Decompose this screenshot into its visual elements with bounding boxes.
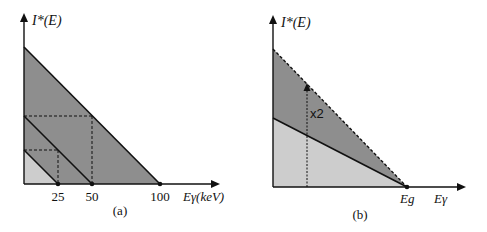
caption-a: (a): [113, 203, 127, 218]
tick-dot-100: [158, 182, 163, 187]
x-axis-arrow-icon: [211, 180, 220, 188]
panel-a: I*(E) 25 50 100 Eγ(keV) (a): [20, 13, 224, 218]
gap-dot: [405, 185, 410, 190]
tick-dot-25: [56, 182, 61, 187]
y-axis-arrow-icon: [269, 15, 277, 24]
x-axis-arrow-icon: [457, 183, 466, 191]
diagram-canvas: I*(E) 25 50 100 Eγ(keV) (a) x2 I*(E) Eg …: [0, 0, 487, 232]
panel-b: x2 I*(E) Eg Eγ (b): [269, 15, 466, 222]
caption-b: (b): [352, 207, 367, 222]
y-axis-label: I*(E): [31, 13, 62, 29]
gap-label: Eg: [399, 191, 415, 206]
y-axis-arrow-icon: [20, 13, 28, 22]
x-axis-label: Eγ: [433, 191, 448, 206]
tick-label-100: 100: [150, 189, 170, 204]
x-axis-label: Eγ(keV): [182, 189, 224, 204]
x2-label: x2: [310, 106, 324, 121]
tick-dot-50: [90, 182, 95, 187]
tick-label-50: 50: [86, 189, 99, 204]
tick-label-25: 25: [52, 189, 65, 204]
y-axis-label: I*(E): [280, 15, 311, 31]
